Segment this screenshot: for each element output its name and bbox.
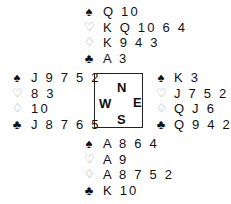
diamond-icon: ♢ xyxy=(83,167,95,182)
south-hearts-cards: A 9 xyxy=(103,152,128,167)
diamond-icon: ♢ xyxy=(11,101,23,116)
south-spades-cards: A 8 6 4 xyxy=(103,136,159,151)
spade-icon: ♠ xyxy=(83,4,95,19)
compass-south-label: S xyxy=(117,113,126,126)
west-hearts-cards: 8 3 xyxy=(31,86,56,101)
heart-icon: ♡ xyxy=(83,20,95,35)
south-diamonds-cards: A 8 7 5 2 xyxy=(103,167,174,182)
west-spades-cards: J 9 7 5 2 xyxy=(31,70,101,85)
east-spades-cards: K 3 xyxy=(174,70,200,85)
club-icon: ♣ xyxy=(83,51,95,66)
club-icon: ♣ xyxy=(155,117,167,132)
diamond-icon: ♢ xyxy=(155,101,167,116)
heart-icon: ♡ xyxy=(11,86,23,101)
east-hearts-cards: J 7 5 2 xyxy=(174,86,228,101)
north-diamonds-cards: K 9 4 3 xyxy=(103,35,160,50)
east-clubs-cards: Q 9 4 2 xyxy=(174,117,231,132)
east-diamonds-cards: Q J 6 xyxy=(174,101,216,116)
club-icon: ♣ xyxy=(11,117,23,132)
compass-east-label: E xyxy=(133,96,142,109)
diamond-icon: ♢ xyxy=(83,35,95,50)
heart-icon: ♡ xyxy=(155,86,167,101)
west-diamonds-cards: 10 xyxy=(31,101,50,116)
heart-icon: ♡ xyxy=(83,152,95,167)
spade-icon: ♠ xyxy=(155,70,167,85)
spade-icon: ♠ xyxy=(83,136,95,151)
south-clubs-cards: K 10 xyxy=(103,183,139,198)
west-clubs-cards: J 8 7 6 5 xyxy=(31,117,101,132)
compass-west-label: W xyxy=(99,97,111,110)
spade-icon: ♠ xyxy=(11,70,23,85)
compass-north-label: N xyxy=(117,81,126,94)
club-icon: ♣ xyxy=(83,183,95,198)
north-spades-cards: Q 10 xyxy=(103,4,140,19)
north-hearts-cards: K Q 10 6 4 xyxy=(103,20,187,35)
north-clubs-cards: A 3 xyxy=(103,51,128,66)
compass-box: N W E S xyxy=(94,73,143,128)
